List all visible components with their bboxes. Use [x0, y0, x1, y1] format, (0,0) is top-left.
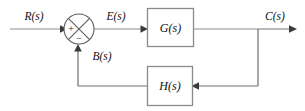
block-g-label: G(s): [160, 21, 181, 35]
signal-label-r: R(s): [23, 10, 43, 23]
block-diagram-container: + − G(s) H(s) R(s) E(s) C(s) B(s): [0, 0, 305, 111]
block-h-label: H(s): [158, 79, 180, 93]
signal-label-b: B(s): [92, 50, 111, 63]
summing-junction-plus-sign: +: [68, 23, 74, 34]
arrowhead-into-summing-junction-feedback: [74, 44, 82, 52]
arrowhead-output-c: [289, 25, 297, 33]
summing-junction-minus-sign: −: [76, 33, 82, 44]
signal-label-e: E(s): [105, 10, 125, 23]
block-diagram-canvas: + − G(s) H(s) R(s) E(s) C(s) B(s): [0, 0, 305, 111]
signal-label-c: C(s): [265, 10, 285, 23]
